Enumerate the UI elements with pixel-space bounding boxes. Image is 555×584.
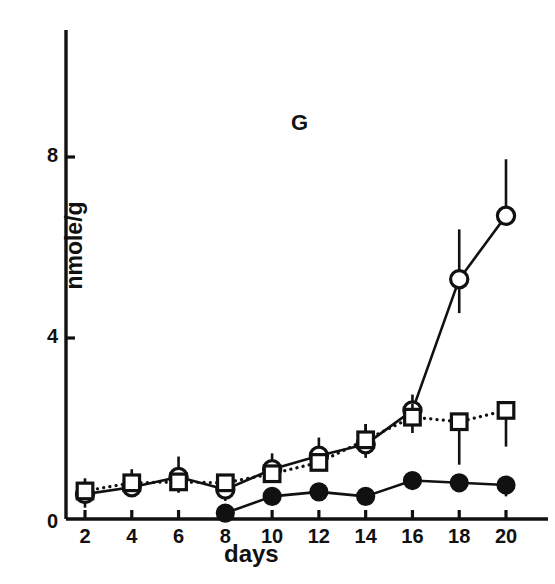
x-tick-label: 12 [299,525,339,548]
marker-open-square [498,403,514,419]
x-tick-label: 16 [392,525,432,548]
marker-filled-circle [451,474,468,491]
y-axis-label: nmole/g [61,166,88,326]
x-tick-label: 10 [252,525,292,548]
y-tick-label: 8 [28,144,58,167]
marker-open-square [451,414,467,430]
chart-plot-area [76,159,514,521]
marker-open-square [311,455,327,471]
marker-filled-circle [264,488,281,505]
x-tick-label: 6 [159,525,199,548]
open-circle-series [76,159,514,507]
marker-filled-circle [310,483,327,500]
x-tick-label: 18 [439,525,479,548]
y-tick-label: 0 [28,510,58,533]
x-tick-label: 8 [205,525,245,548]
x-tick-label: 14 [346,525,386,548]
open-circle-series-line [85,216,506,494]
marker-filled-circle [498,477,515,494]
marker-open-square [171,474,187,490]
marker-open-square [218,475,234,491]
marker-filled-circle [217,505,234,522]
y-tick-label: 4 [28,325,58,348]
x-tick-label: 2 [65,525,105,548]
panel-label: G [291,110,308,136]
marker-open-square [405,409,421,425]
marker-open-square [124,475,140,491]
marker-open-square [77,483,93,499]
marker-open-square [264,466,280,482]
marker-open-circle [451,271,468,288]
marker-filled-circle [357,488,374,505]
marker-filled-circle [404,472,421,489]
marker-open-square [358,432,374,448]
x-tick-label: 20 [486,525,526,548]
open-square-series-line [85,410,506,491]
chart-axes [66,30,548,519]
marker-open-circle [497,207,514,224]
x-tick-label: 4 [112,525,152,548]
